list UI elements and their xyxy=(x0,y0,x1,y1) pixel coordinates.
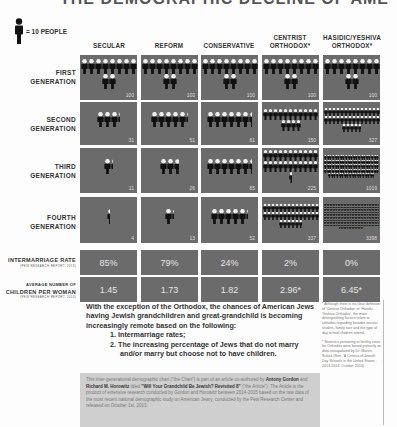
summary-text: With the exception of the Orthodox, the … xyxy=(86,302,322,358)
person-icon xyxy=(186,112,189,127)
person-icon xyxy=(246,209,249,224)
cell-third-centrist: 225 xyxy=(262,148,319,193)
person-icon xyxy=(109,59,116,74)
person-icon xyxy=(352,59,359,74)
person-icon xyxy=(104,159,111,174)
summary-list: 1. Intermarriage rates; 2. The increasin… xyxy=(86,330,322,358)
person-icon xyxy=(230,59,237,74)
person-icon xyxy=(338,59,345,74)
person-icon xyxy=(277,59,284,74)
count-label: 52 xyxy=(249,235,255,241)
intermarriage-reform: 79% xyxy=(141,250,198,275)
cell-fourth-centrist: 337 xyxy=(262,197,319,243)
person-icon xyxy=(102,59,109,74)
count-label: 337 xyxy=(308,235,316,241)
person-icon xyxy=(149,59,156,74)
column-header-secular: SECULAR xyxy=(80,20,138,50)
row-header-third-generation: THIRDGENERATION xyxy=(0,162,76,180)
count-label: 327 xyxy=(369,137,377,143)
people-icons xyxy=(80,197,137,235)
count-label: 150 xyxy=(308,137,316,143)
person-icon xyxy=(95,59,102,74)
person-icon xyxy=(242,112,249,127)
person-icon xyxy=(107,209,110,224)
count-label: 4 xyxy=(131,235,134,241)
person-icon xyxy=(211,209,218,224)
person-icon xyxy=(184,59,191,74)
row-source: (PEW RESEARCH REPORT, 2013) xyxy=(0,295,76,299)
count-label: 26 xyxy=(189,185,195,191)
person-icon xyxy=(177,59,184,74)
cell-first-conservative: 100 xyxy=(201,55,258,100)
cell-fourth-secular: 4 xyxy=(80,197,137,243)
person-icon xyxy=(315,212,319,220)
cell-third-reform: 26 xyxy=(141,148,198,193)
person-icon xyxy=(376,169,379,174)
person-icon xyxy=(372,173,374,178)
person-icon xyxy=(102,74,109,89)
cell-third-conservative: 65 xyxy=(201,148,258,193)
count-label: 100 xyxy=(308,92,316,98)
row-header-intermarriage: INTERMARRIAGE RATE(PEW RESEARCH REPORT, … xyxy=(0,257,76,268)
cell-first-centrist: 100 xyxy=(262,55,319,100)
person-icon xyxy=(156,59,163,74)
column-header-hasidic-orthodox: HASIDIC/YESHIVA ORTHODOX* xyxy=(322,20,382,50)
person-icon xyxy=(123,59,130,74)
row-source: (PEW RESEARCH REPORT, 2013) xyxy=(0,264,76,268)
person-icon xyxy=(158,112,165,127)
person-icon xyxy=(242,159,249,174)
people-icons xyxy=(141,55,198,92)
person-icon xyxy=(312,59,319,74)
count-label: 11 xyxy=(129,185,134,191)
row-label-line2: GENERATION xyxy=(30,78,76,85)
divider xyxy=(383,300,384,425)
person-icon xyxy=(111,112,118,127)
people-icons xyxy=(141,148,198,185)
person-icon xyxy=(111,159,114,174)
cell-third-hasidic: 1019 xyxy=(323,148,380,193)
person-icon xyxy=(296,120,301,131)
column-header-centrist-orthodox: CENTRIST ORTHODOX* xyxy=(261,20,319,50)
person-icon xyxy=(223,74,230,89)
person-icon xyxy=(116,59,123,74)
count-label: 225 xyxy=(308,185,316,191)
person-icon xyxy=(104,112,111,127)
person-icon xyxy=(376,116,380,124)
person-icon xyxy=(81,59,88,74)
person-icon xyxy=(352,74,359,89)
people-icons xyxy=(80,55,137,92)
person-icon xyxy=(315,204,319,212)
person-icon xyxy=(291,59,298,74)
note-text: titled xyxy=(129,384,141,389)
person-icon xyxy=(289,172,292,183)
cell-fourth-reform: 13 xyxy=(141,197,198,243)
row-label-line2: GENERATION xyxy=(30,125,76,132)
source-note: This inter-generational demographic char… xyxy=(80,373,320,427)
count-label: 65 xyxy=(249,185,255,191)
people-icons xyxy=(201,55,258,92)
person-icon xyxy=(160,159,167,174)
row-label-line2: GENERATION xyxy=(30,172,76,179)
person-icon xyxy=(174,159,178,174)
person-icon xyxy=(109,74,116,89)
note-author: Richard M. Horowitz xyxy=(86,384,129,389)
children-centrist: 2.96* xyxy=(262,277,319,302)
person-icon xyxy=(358,124,361,132)
person-icon xyxy=(207,159,214,174)
person-icon xyxy=(331,59,338,74)
row-label-line1: AVERAGE NUMBER OF xyxy=(26,282,76,287)
intermarriage-centrist: 2% xyxy=(262,250,319,275)
count-label: 100 xyxy=(187,92,195,98)
person-icon xyxy=(151,112,158,127)
intermarriage-hasidic: 0% xyxy=(323,250,380,275)
person-icon xyxy=(345,59,352,74)
children-reform: 1.73 xyxy=(141,277,198,302)
person-icon xyxy=(223,59,230,74)
person-icon xyxy=(14,18,24,44)
person-icon xyxy=(165,112,172,127)
intermarriage-secular: 85% xyxy=(80,250,137,275)
summary-point: 2. The increasing percentage of Jews tha… xyxy=(110,340,322,359)
cell-second-centrist: 150 xyxy=(262,102,319,145)
intermarriage-conservative: 24% xyxy=(201,250,258,275)
person-icon xyxy=(225,209,232,224)
